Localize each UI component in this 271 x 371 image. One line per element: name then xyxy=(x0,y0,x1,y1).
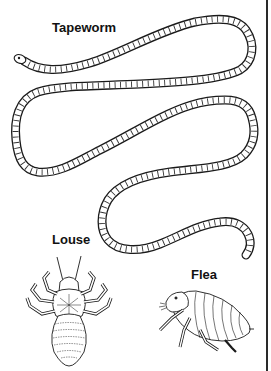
right-border-rule xyxy=(266,0,268,371)
flea-label: Flea xyxy=(191,268,217,281)
tapeworm-drawing xyxy=(13,19,254,255)
illustrations-svg xyxy=(0,0,271,371)
tapeworm-label: Tapeworm xyxy=(52,21,116,34)
louse-drawing xyxy=(27,256,111,366)
parasite-illustration-figure: Tapeworm Louse Flea xyxy=(0,0,271,371)
flea-drawing xyxy=(159,291,254,352)
louse-label: Louse xyxy=(52,233,90,246)
